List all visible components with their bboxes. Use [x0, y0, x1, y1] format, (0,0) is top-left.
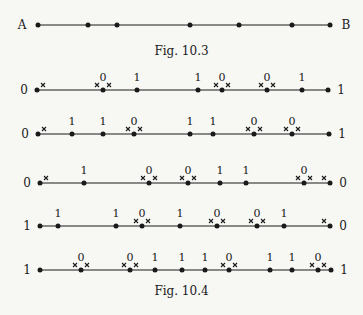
cross-mark-icon: [134, 263, 138, 267]
cross-mark-icon: [322, 176, 326, 180]
point-dot: [188, 132, 193, 137]
point-label: 0: [146, 164, 153, 177]
right-endpoint-label: 0: [339, 219, 347, 233]
cross-mark-icon: [42, 127, 46, 131]
label-b: B: [342, 18, 351, 32]
cross-mark-icon: [259, 83, 263, 87]
point-dot: [180, 268, 185, 273]
point-dot: [101, 132, 106, 137]
left-endpoint-label: 1: [23, 219, 31, 233]
point-label: 1: [267, 251, 274, 264]
point-label: 0: [289, 115, 296, 128]
cross-mark-icon: [221, 263, 225, 267]
point-label: 1: [100, 115, 107, 128]
fig-10-4-caption: Fig. 10.4: [0, 284, 363, 298]
cross-mark-icon: [126, 127, 130, 131]
cross-mark-icon: [233, 263, 237, 267]
label-a: A: [17, 18, 27, 32]
point-label: 1: [179, 251, 186, 264]
point-label: 1: [177, 207, 184, 220]
point-dot: [86, 23, 91, 28]
point-dot: [132, 132, 137, 137]
point-dot: [38, 181, 43, 186]
point-label: 0: [251, 115, 258, 128]
point-label: 1: [217, 164, 224, 177]
point-dot: [153, 268, 158, 273]
point-label: 0: [264, 71, 271, 84]
cross-mark-icon: [258, 127, 262, 131]
point-dot: [147, 181, 152, 186]
point-dot: [101, 88, 106, 93]
cross-mark-icon: [141, 176, 145, 180]
point-dot: [70, 132, 75, 137]
point-dot: [114, 224, 119, 229]
point-dot: [82, 181, 87, 186]
cross-mark-icon: [322, 263, 326, 267]
cross-mark-icon: [134, 219, 138, 223]
cross-mark-icon: [249, 219, 253, 223]
point-label: 0: [214, 207, 221, 220]
point-dot: [56, 224, 61, 229]
cross-mark-icon: [107, 83, 111, 87]
point-dot: [252, 132, 257, 137]
fig-10-3-caption: Fig. 10.3: [0, 44, 363, 58]
cross-mark-icon: [322, 219, 326, 223]
point-label: 1: [281, 207, 288, 220]
point-dot: [328, 23, 333, 28]
figure-page: AB01011001011101100001001101011010011100…: [0, 0, 363, 315]
point-dot: [196, 88, 201, 93]
point-label: 1: [69, 115, 76, 128]
cross-mark-icon: [73, 263, 77, 267]
point-label: 0: [301, 164, 308, 177]
point-dot: [290, 23, 295, 28]
point-dot: [38, 224, 43, 229]
point-dot: [38, 268, 43, 273]
point-dot: [316, 268, 321, 273]
cross-mark-icon: [271, 83, 275, 87]
point-dot: [186, 181, 191, 186]
cross-mark-icon: [214, 83, 218, 87]
point-dot: [220, 88, 225, 93]
cross-mark-icon: [85, 263, 89, 267]
point-dot: [79, 268, 84, 273]
point-label: 1: [152, 251, 159, 264]
point-dot: [255, 224, 260, 229]
point-label: 0: [315, 251, 322, 264]
point-label: 1: [187, 115, 194, 128]
cross-mark-icon: [226, 83, 230, 87]
right-endpoint-label: 0: [339, 176, 347, 190]
cross-mark-icon: [308, 176, 312, 180]
cross-mark-icon: [296, 176, 300, 180]
point-label: 1: [81, 164, 88, 177]
cross-mark-icon: [261, 219, 265, 223]
point-dot: [265, 88, 270, 93]
cross-mark-icon: [209, 219, 213, 223]
point-dot: [290, 132, 295, 137]
point-dot: [327, 132, 332, 137]
point-label: 1: [113, 207, 120, 220]
point-dot: [128, 268, 133, 273]
point-label: 1: [243, 164, 250, 177]
point-label: 0: [219, 71, 226, 84]
point-label: 0: [78, 251, 85, 264]
cross-mark-icon: [296, 127, 300, 131]
point-label: 1: [299, 71, 306, 84]
point-dot: [211, 132, 216, 137]
right-endpoint-label: 1: [340, 263, 348, 277]
cross-mark-icon: [284, 127, 288, 131]
cross-mark-icon: [153, 176, 157, 180]
point-label: 1: [195, 71, 202, 84]
cross-mark-icon: [95, 83, 99, 87]
left-endpoint-label: 0: [20, 83, 28, 97]
point-dot: [140, 224, 145, 229]
point-dot: [290, 268, 295, 273]
point-label: 1: [55, 207, 62, 220]
cross-mark-icon: [192, 176, 196, 180]
point-dot: [237, 23, 242, 28]
point-dot: [36, 23, 41, 28]
point-dot: [218, 181, 223, 186]
left-endpoint-label: 0: [21, 127, 29, 141]
left-endpoint-label: 1: [23, 263, 31, 277]
point-label: 0: [185, 164, 192, 177]
point-dot: [36, 132, 41, 137]
